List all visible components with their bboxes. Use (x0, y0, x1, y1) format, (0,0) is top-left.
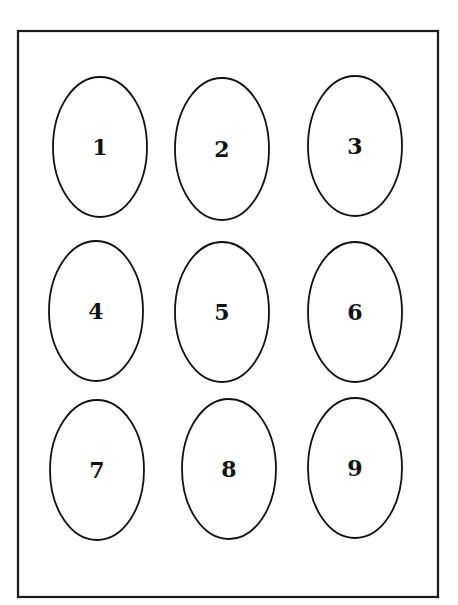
ellipse-number-label: 4 (88, 298, 103, 324)
ellipse-item-5: 5 (175, 242, 269, 382)
ellipse-number-label: 2 (214, 136, 229, 162)
ellipse-item-2: 2 (175, 78, 269, 220)
ellipse-item-8: 8 (182, 399, 276, 539)
ellipse-item-7: 7 (50, 400, 144, 540)
ellipse-number-label: 1 (92, 134, 107, 160)
ellipse-number-label: 3 (347, 133, 362, 159)
ellipse-number-label: 7 (89, 457, 104, 483)
ellipse-item-6: 6 (308, 242, 402, 382)
ellipse-item-9: 9 (308, 398, 402, 538)
ellipse-item-3: 3 (308, 76, 402, 216)
ellipse-number-label: 9 (347, 455, 362, 481)
ellipse-number-label: 8 (221, 456, 236, 482)
diagram-canvas: 123456789 (0, 0, 458, 605)
ellipse-item-1: 1 (53, 77, 147, 217)
ellipse-item-4: 4 (49, 241, 143, 381)
ellipse-grid: 123456789 (49, 76, 402, 540)
ellipse-number-label: 5 (214, 299, 229, 325)
ellipse-number-label: 6 (347, 299, 362, 325)
